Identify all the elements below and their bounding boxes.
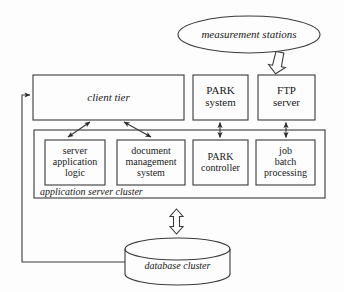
- diagram-canvas: [0, 0, 344, 292]
- park-system-shape: [193, 75, 248, 120]
- ftp-server-shape: [258, 75, 315, 120]
- park-controller-shape: [193, 140, 248, 185]
- cluster-to-database-block-arrow: [170, 209, 183, 234]
- database-cluster-shape: [125, 238, 230, 285]
- document-management-system-shape: [117, 140, 185, 185]
- stations-to-ftp-block-arrow: [267, 51, 288, 76]
- client-tier-shape: [33, 75, 184, 120]
- architecture-diagram: measurement stations client tier PARK sy…: [0, 0, 344, 292]
- measurement-stations-shape: [178, 16, 320, 53]
- job-batch-processing-shape: [256, 140, 315, 185]
- server-application-logic-shape: [45, 140, 105, 185]
